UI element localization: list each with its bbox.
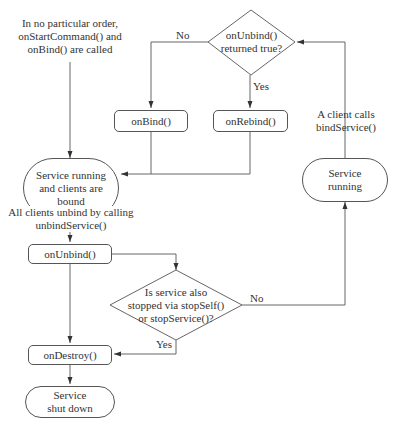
on-bind-node: onBind() (114, 110, 188, 132)
on-destroy-label: onDestroy() (43, 349, 96, 362)
on-rebind-node: onRebind() (213, 110, 288, 132)
client-binds-note: A client calls bindService() (310, 108, 382, 134)
decision-rebind: onUnbind() returned true? (208, 29, 295, 55)
service-running-node: Service running (302, 158, 388, 202)
service-running-line-1: Service (329, 167, 362, 180)
edge-client-binds (297, 42, 345, 158)
all-unbind-line-1: All clients unbind by calling (6, 206, 136, 219)
client-binds-line-2: bindService() (310, 121, 382, 134)
on-bind-label: onBind() (131, 115, 171, 128)
edge-label-rebind-no: No (176, 29, 189, 42)
edge-onunbind-to-decision (112, 254, 176, 270)
edge-rebind-no (151, 42, 208, 108)
on-unbind-node: onUnbind() (28, 244, 112, 264)
decision-stopped-line-2: stopped via stopSelf() (110, 299, 242, 312)
on-rebind-label: onRebind() (225, 115, 275, 128)
running-bound-line-2: and clients are (39, 182, 103, 195)
decision-stopped: Is service also stopped via stopSelf() o… (110, 286, 242, 325)
edge-stopped-no (242, 202, 345, 305)
edge-label-stopped-no: No (250, 292, 263, 305)
edge-onrebind-to-running-bound (121, 132, 250, 174)
shut-down-line-2: shut down (47, 402, 93, 415)
start-note-line-1: In no particular order, (16, 17, 124, 30)
decision-stopped-line-3: or stopService()? (110, 312, 242, 325)
edge-label-stopped-yes: Yes (156, 338, 172, 351)
on-destroy-node: onDestroy() (28, 345, 112, 365)
start-note-line-3: onBind() are called (16, 43, 124, 56)
shut-down-node: Service shut down (25, 386, 115, 418)
edge-label-rebind-yes: Yes (253, 80, 269, 93)
all-unbind-line-2: unbindService() (6, 219, 136, 232)
running-bound-line-1: Service running (36, 169, 106, 182)
client-binds-line-1: A client calls (310, 108, 382, 121)
on-unbind-label: onUnbind() (44, 248, 95, 261)
decision-rebind-line-1: onUnbind() (208, 29, 295, 42)
all-unbind-note: All clients unbind by calling unbindServ… (6, 206, 136, 232)
shut-down-line-1: Service (54, 389, 87, 402)
start-note: In no particular order, onStartCommand()… (16, 17, 124, 56)
decision-stopped-line-1: Is service also (110, 286, 242, 299)
decision-rebind-line-2: returned true? (208, 42, 295, 55)
service-running-line-2: running (328, 180, 362, 193)
start-note-line-2: onStartCommand() and (16, 30, 124, 43)
